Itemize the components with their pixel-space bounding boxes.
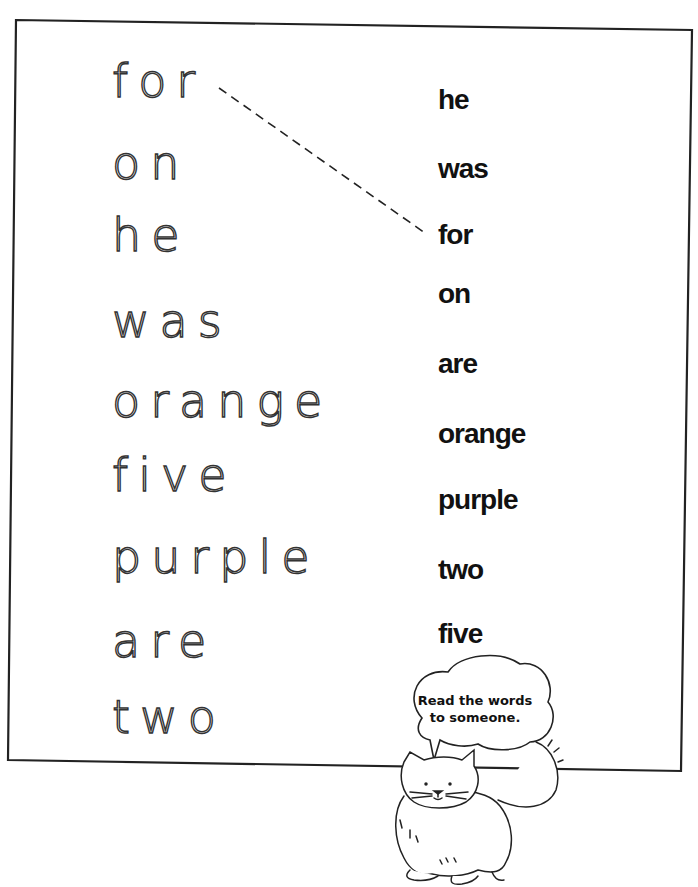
worksheet-frame [0, 0, 698, 887]
match-word-he: he [438, 86, 469, 114]
trace-word-are: are [112, 618, 216, 664]
speech-line-1: Read the words [409, 692, 541, 709]
match-word-two: two [438, 556, 483, 584]
trace-word-for: for [112, 58, 205, 104]
match-word-on: on [438, 280, 470, 308]
match-word-was: was [438, 155, 488, 183]
trace-word-five: five [112, 452, 237, 498]
trace-word-was: was [112, 298, 232, 344]
trace-word-purple: purple [112, 534, 320, 580]
trace-word-on: on [112, 140, 189, 186]
example-match-line [219, 88, 425, 233]
match-word-purple: purple [438, 486, 518, 514]
speech-bubble-text: Read the words to someone. [409, 692, 541, 726]
trace-word-two: two [112, 694, 226, 740]
trace-word-he: he [112, 212, 189, 258]
trace-word-orange: orange [112, 378, 332, 424]
match-word-for: for [438, 221, 472, 249]
cat-icon [396, 740, 563, 884]
match-word-are: are [438, 350, 477, 378]
speech-line-2: to someone. [409, 709, 541, 726]
match-word-five: five [438, 620, 482, 648]
match-word-orange: orange [438, 420, 525, 448]
